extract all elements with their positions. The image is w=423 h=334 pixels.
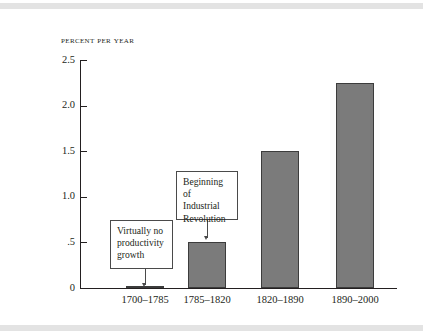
annotation-no-growth-arrowhead <box>142 283 146 287</box>
bar-1820-1890[interactable] <box>261 151 299 288</box>
y-tick-label-2-5: 2.5 <box>35 55 75 66</box>
annotation-no-growth[interactable]: Virtually no productivity growth <box>110 220 173 269</box>
bar-1890-2000[interactable] <box>336 83 374 288</box>
annotation-industrial-revolution[interactable]: Beginning of Industrial Revolution <box>176 171 238 220</box>
bar-1785-1820[interactable] <box>188 242 226 288</box>
y-tick-2-0 <box>81 106 87 107</box>
y-tick-label-2-0: 2.0 <box>35 100 75 111</box>
annotation-no-growth-line-1: Virtually no <box>117 225 167 237</box>
annotation-no-growth-line-2: productivity <box>117 237 167 249</box>
annotation-industrial-revolution-line-2: Industrial <box>183 200 232 212</box>
plot-area: 2.5 2.0 1.5 1.0 .5 0 1700–1785 1785–1820… <box>0 9 423 325</box>
y-tick-label-0: 0 <box>35 283 75 294</box>
annotation-industrial-revolution-arrowhead <box>204 236 208 240</box>
y-tick-1-5 <box>81 151 87 152</box>
annotation-no-growth-line-3: growth <box>117 249 167 261</box>
y-tick-0-5 <box>81 242 87 243</box>
y-tick-2-5 <box>81 60 87 61</box>
y-tick-0 <box>81 288 87 289</box>
y-tick-1-0 <box>81 197 87 198</box>
annotation-industrial-revolution-line-3: Revolution <box>183 213 232 225</box>
bar-chart-figure: Percent per year 2.5 2.0 1.5 1.0 .5 0 17… <box>0 9 423 325</box>
y-tick-label-1-0: 1.0 <box>35 191 75 202</box>
y-axis-line <box>80 60 81 289</box>
y-tick-label-1-5: 1.5 <box>35 146 75 157</box>
y-tick-label-0-5: .5 <box>35 237 75 248</box>
page-band-bottom <box>0 325 423 331</box>
x-tick-label-1890-2000: 1890–2000 <box>305 294 405 305</box>
annotation-industrial-revolution-line-1: Beginning of <box>183 176 232 200</box>
